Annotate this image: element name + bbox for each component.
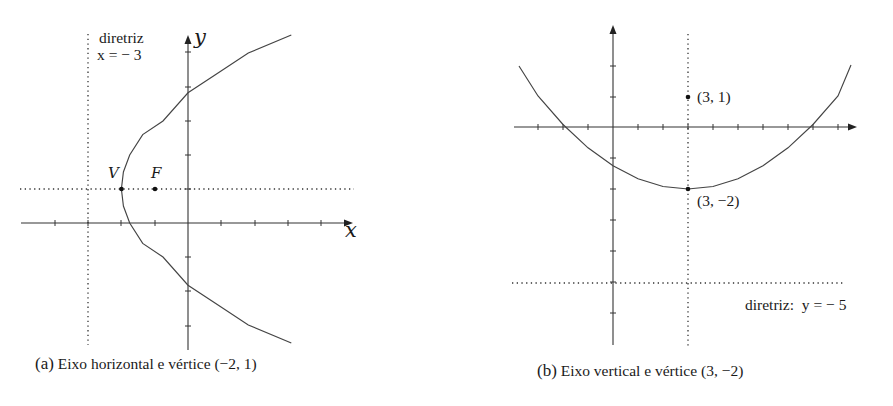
plot-a bbox=[0, 0, 440, 406]
vertex-label: V bbox=[108, 166, 119, 181]
x-axis-label: x bbox=[345, 220, 357, 241]
caption-b-text: Eixo vertical e vértice (3, −2) bbox=[561, 362, 744, 379]
directrix-equation-text: x = − 3 bbox=[97, 46, 142, 63]
caption-a-tag: (a) bbox=[35, 354, 54, 373]
y-axis-label: y bbox=[194, 27, 206, 48]
caption-a: (a) Eixo horizontal e vértice (−2, 1) bbox=[35, 355, 257, 372]
plot-b bbox=[440, 0, 893, 406]
caption-b: (b) Eixo vertical e vértice (3, −2) bbox=[537, 362, 743, 379]
y-axis-arrow-icon bbox=[610, 25, 617, 34]
figure-a: diretriz x = − 3 y x V F (a) Eixo horizo… bbox=[0, 0, 440, 406]
focus-label: F bbox=[151, 166, 161, 181]
vertex-label: (3, −2) bbox=[697, 193, 739, 209]
vertex-point bbox=[119, 187, 124, 192]
focus-label: (3, 1) bbox=[697, 89, 731, 105]
directrix-equation: x = − 3 bbox=[97, 47, 142, 63]
directrix-label: diretriz: y = − 5 bbox=[745, 297, 846, 313]
caption-a-text: Eixo horizontal e vértice (−2, 1) bbox=[58, 355, 257, 372]
caption-b-tag: (b) bbox=[537, 361, 557, 380]
x-axis-arrow-icon bbox=[848, 124, 857, 131]
focus-point bbox=[153, 187, 158, 192]
y-axis-arrow-icon bbox=[185, 35, 192, 44]
directrix-label: diretriz bbox=[99, 30, 144, 46]
focus-point bbox=[686, 95, 691, 100]
figure-b: (3, 1) (3, −2) diretriz: y = − 5 (b) Eix… bbox=[440, 0, 893, 406]
vertex-point bbox=[686, 187, 691, 192]
parabola-curve bbox=[121, 35, 291, 343]
